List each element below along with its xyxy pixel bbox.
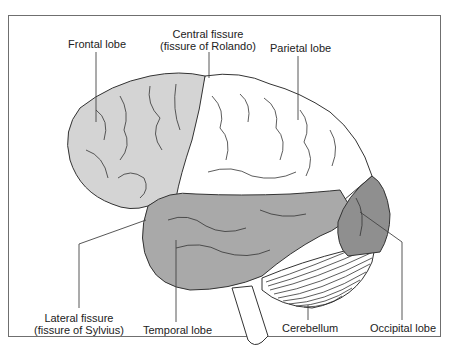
label-frontal-lobe: Frontal lobe — [68, 38, 126, 50]
label-central-fissure: Central fissure (fissure of Rolando) — [160, 28, 256, 52]
leader-lateral — [79, 220, 146, 308]
brainstem — [232, 286, 268, 345]
label-central-fissure-line2: (fissure of Rolando) — [160, 40, 256, 52]
label-lateral-fissure-line2: (fissure of Sylvius) — [34, 324, 124, 336]
label-cerebellum: Cerebellum — [282, 322, 338, 334]
label-lateral-fissure-line1: Lateral fissure — [34, 312, 124, 324]
label-central-fissure-line1: Central fissure — [160, 28, 256, 40]
label-lateral-fissure: Lateral fissure (fissure of Sylvius) — [34, 312, 124, 336]
brain-diagram — [0, 0, 462, 356]
label-occipital-lobe: Occipital lobe — [370, 322, 436, 334]
label-parietal-lobe: Parietal lobe — [270, 42, 331, 54]
label-temporal-lobe: Temporal lobe — [143, 324, 212, 336]
